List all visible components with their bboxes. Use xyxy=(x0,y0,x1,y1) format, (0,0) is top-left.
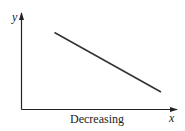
caption-label: Decreasing xyxy=(70,112,124,126)
decreasing-trend-line xyxy=(55,33,162,93)
y-axis-label: y xyxy=(11,10,18,24)
decreasing-line-diagram: y x Decreasing xyxy=(0,0,185,131)
x-axis-label: x xyxy=(168,111,175,125)
